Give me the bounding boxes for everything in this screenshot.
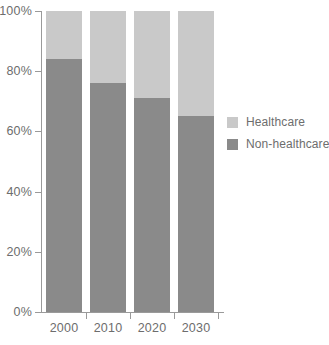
bar-stack[interactable] bbox=[178, 11, 214, 312]
y-tick-mark bbox=[35, 312, 41, 313]
bar-stack[interactable] bbox=[90, 11, 126, 312]
legend-swatch-healthcare-icon bbox=[227, 117, 238, 128]
y-tick-label: 60% bbox=[6, 124, 32, 138]
bar-stack[interactable] bbox=[134, 11, 170, 312]
x-tick-mark bbox=[86, 313, 87, 319]
bar-segment-non-healthcare[interactable] bbox=[46, 59, 82, 312]
y-tick-mark bbox=[35, 252, 41, 253]
x-tick-label: 2000 bbox=[50, 321, 79, 335]
legend-label-non-healthcare: Non-healthcare bbox=[246, 137, 329, 151]
legend-item-healthcare[interactable]: Healthcare bbox=[227, 112, 322, 132]
y-tick-mark bbox=[35, 71, 41, 72]
legend-label-healthcare: Healthcare bbox=[246, 115, 305, 129]
x-tick-label: 2020 bbox=[138, 321, 167, 335]
plot-area bbox=[42, 11, 218, 312]
legend-swatch-non-healthcare-icon bbox=[227, 139, 238, 150]
y-tick-label: 80% bbox=[6, 64, 32, 78]
bar-segment-healthcare[interactable] bbox=[46, 11, 82, 59]
bar-segment-healthcare[interactable] bbox=[134, 11, 170, 98]
x-tick-label: 2010 bbox=[94, 321, 123, 335]
y-tick-mark bbox=[35, 131, 41, 132]
legend-item-non-healthcare[interactable]: Non-healthcare bbox=[227, 134, 322, 154]
bar-segment-non-healthcare[interactable] bbox=[134, 98, 170, 312]
x-tick-label: 2030 bbox=[182, 321, 211, 335]
chart-legend: Healthcare Non-healthcare bbox=[227, 112, 322, 156]
x-tick-mark bbox=[218, 313, 219, 319]
y-tick-label: 20% bbox=[6, 245, 32, 259]
bar-stack[interactable] bbox=[46, 11, 82, 312]
y-tick-label: 40% bbox=[6, 185, 32, 199]
bar-segment-healthcare[interactable] bbox=[178, 11, 214, 116]
bar-segment-non-healthcare[interactable] bbox=[178, 116, 214, 312]
y-tick-label: 100% bbox=[0, 4, 32, 18]
x-tick-mark bbox=[130, 313, 131, 319]
bar-segment-healthcare[interactable] bbox=[90, 11, 126, 83]
x-tick-mark bbox=[174, 313, 175, 319]
y-tick-mark bbox=[35, 192, 41, 193]
y-tick-label: 0% bbox=[14, 305, 32, 319]
y-tick-mark bbox=[35, 11, 41, 12]
bar-segment-non-healthcare[interactable] bbox=[90, 83, 126, 312]
